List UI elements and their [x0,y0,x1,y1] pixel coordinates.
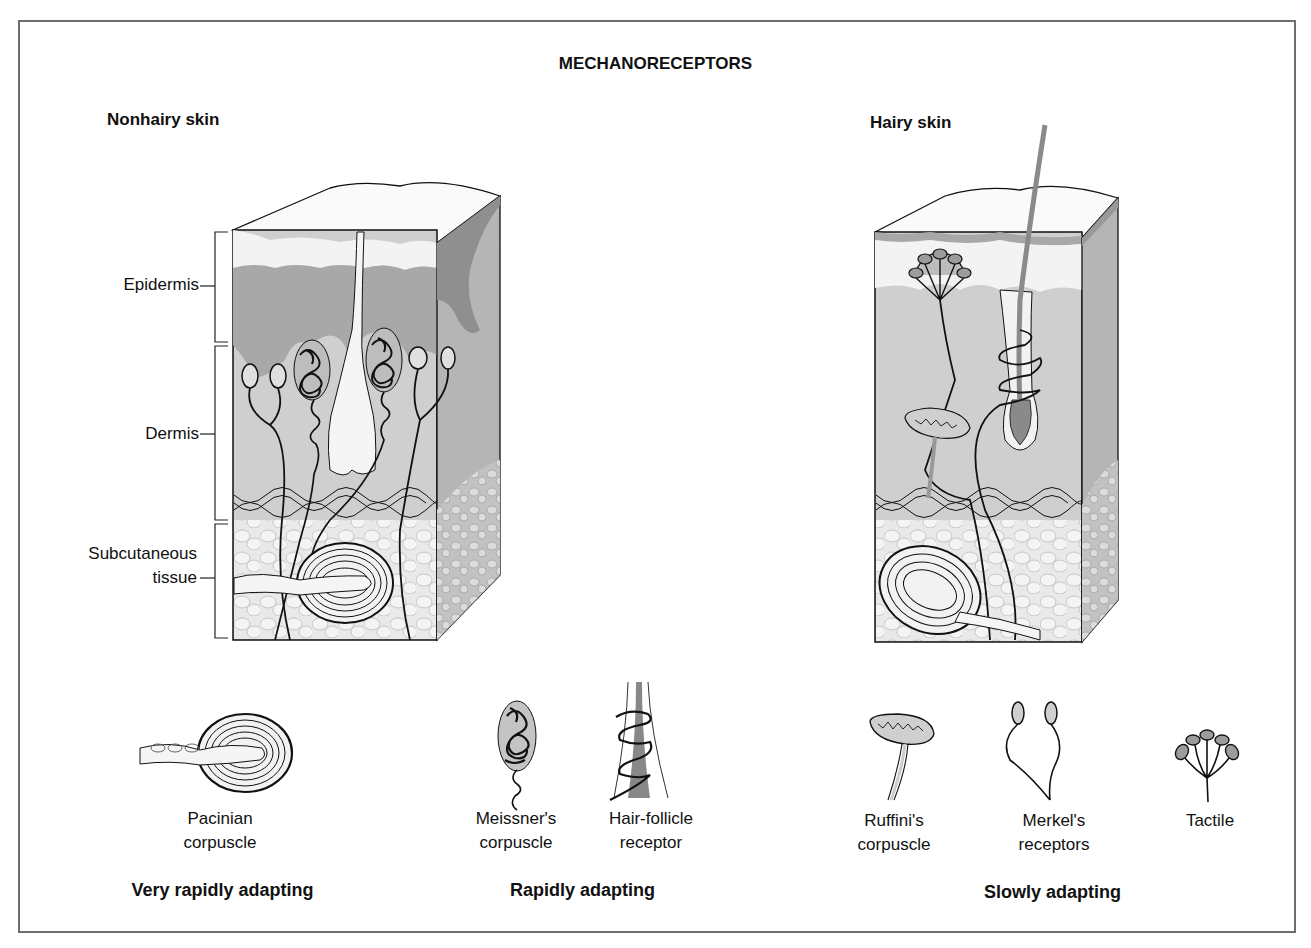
receptor-label-hair-follicle: Hair-follicle receptor [586,807,716,855]
meissner-corpuscle-icon [498,701,536,810]
receptor-label-meissner: Meissner's corpuscle [456,807,576,855]
diagram-graphics [0,0,1311,948]
category-very-rapidly-adapting: Very rapidly adapting [100,880,345,901]
merkel-receptors-icon [1006,702,1059,800]
receptor-label-pacinian: Pacinian corpuscle [160,807,280,855]
layer-brackets [200,232,228,638]
hairy-skin-block [865,125,1118,650]
pacinian-corpuscle-icon [140,714,292,792]
ruffini-corpuscle-icon [870,714,934,800]
receptor-label-ruffini: Ruffini's corpuscle [834,809,954,857]
category-rapidly-adapting: Rapidly adapting [460,880,705,901]
nonhairy-skin-block [200,183,500,640]
receptor-label-merkel: Merkel's receptors [994,809,1114,857]
category-slowly-adapting: Slowly adapting [930,882,1175,903]
hair-follicle-receptor-icon [610,682,668,800]
receptor-label-tactile: Tactile [1150,809,1270,833]
tactile-disc-icon [1173,730,1241,802]
